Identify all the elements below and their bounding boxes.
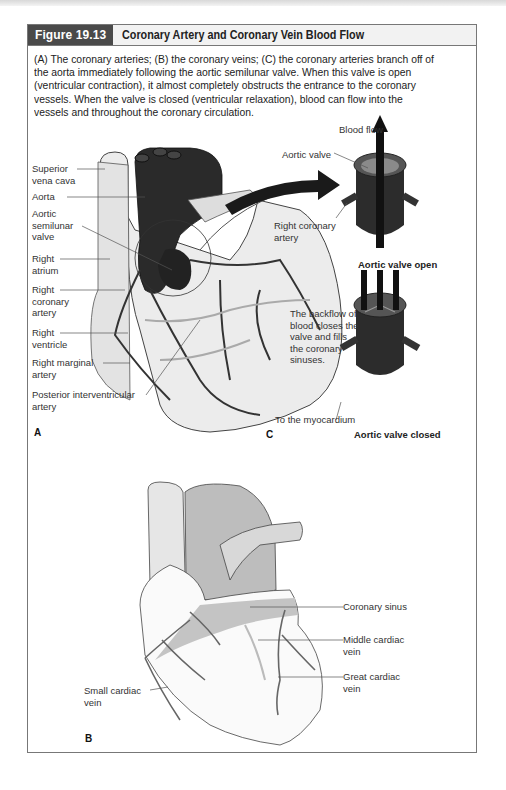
label-right-atrium: Right atrium <box>32 253 58 276</box>
label-great-cardiac-vein: Great cardiac vein <box>343 671 400 694</box>
label-backflow: The backflow of blood closes the valve a… <box>290 308 359 366</box>
label-aortic-semilunar-valve: Aortic semilunar valve <box>32 208 73 243</box>
panel-letter-c: C <box>266 429 273 440</box>
label-superior-vena-cava: Superior vena cava <box>32 163 75 186</box>
caption-aortic-valve-open: Aortic valve open <box>358 259 437 271</box>
label-to-the-myocardium: To the myocardium <box>275 414 355 426</box>
label-posterior-interventricular-artery: Posterior interventricular artery <box>32 389 135 412</box>
label-right-coronary-artery: Right coronary artery <box>32 284 69 319</box>
caption-aortic-valve-closed: Aortic valve closed <box>354 429 441 441</box>
label-small-cardiac-vein: Small cardiac vein <box>84 685 141 708</box>
label-coronary-sinus: Coronary sinus <box>343 601 407 613</box>
label-right-coronary-artery-c: Right coronary artery <box>274 220 336 243</box>
heart-veins-illustration <box>140 482 322 745</box>
label-aorta: Aorta <box>32 191 55 203</box>
panel-letter-a: A <box>34 427 41 438</box>
label-right-marginal-artery: Right marginal artery <box>32 357 93 380</box>
label-aortic-valve: Aortic valve <box>282 149 331 161</box>
panel-letter-b: B <box>85 733 92 744</box>
label-right-ventricle: Right ventricle <box>32 327 67 350</box>
label-middle-cardiac-vein: Middle cardiac vein <box>343 634 404 657</box>
label-blood-flow: Blood flow <box>339 124 383 136</box>
